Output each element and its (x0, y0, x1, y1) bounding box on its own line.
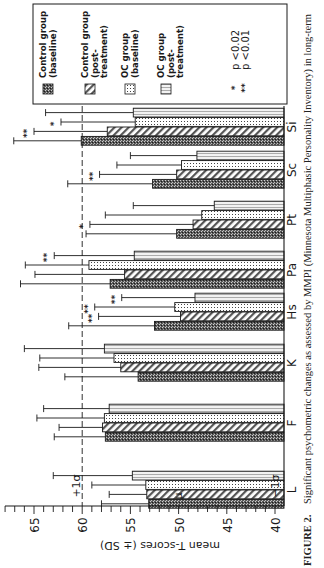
bar-group-pa: ** (21, 251, 284, 288)
legend-label: treatment) (175, 25, 185, 78)
dense-dots-swatch-icon (43, 84, 53, 94)
axis-tick-label: 45 (221, 517, 235, 532)
bar-hs-series-0 (155, 321, 285, 330)
sparse-dots-swatch-icon (125, 84, 135, 94)
bar-sc-series-0 (153, 179, 284, 188)
category-labels: LFKHsPaPtScSi (285, 122, 299, 494)
bar-group-sc: ** (68, 151, 284, 188)
bar-si-series-3 (133, 108, 284, 117)
category-label-si: Si (285, 122, 299, 133)
caption-text: Significant psychometric changes as asse… (302, 14, 314, 504)
category-label-sc: Sc (285, 163, 299, 177)
bar-k-series-3 (104, 344, 284, 353)
axis-title: mean T-scores (± SD) (100, 539, 220, 552)
bar-pa-series-0 (110, 279, 284, 288)
axis-tick-label: 55 (124, 517, 138, 532)
category-label-pa: Pa (285, 263, 299, 277)
axis-tick-label: 65 (28, 517, 42, 532)
category-label-hs: Hs (285, 304, 299, 319)
significance-marker: ** (87, 313, 97, 323)
significance-marker: ** (42, 253, 52, 263)
bar-pt-series-3 (214, 201, 284, 210)
bar-pa-series-1 (125, 270, 284, 279)
vertical-lines-swatch-icon (161, 84, 171, 94)
category-label-k: K (285, 358, 299, 367)
legend-label: OC group (156, 33, 166, 78)
significance-legend-marker: * (230, 85, 240, 90)
bar-k-series-2 (114, 354, 284, 363)
bar-group-l (53, 471, 284, 508)
significance-marker: * (78, 224, 88, 229)
bar-hs-series-3 (195, 293, 284, 302)
bar-series: ************** (14, 108, 284, 508)
bar-pt-series-2 (202, 211, 284, 220)
bar-l-series-3 (132, 471, 284, 480)
significance-marker: ** (110, 295, 120, 305)
legend-label: treatment) (99, 25, 109, 78)
bar-f-series-1 (102, 423, 284, 432)
plus-sigma-label: +1σ (70, 474, 83, 497)
axis-tick-label: 50 (173, 517, 187, 532)
category-label-f: F (285, 419, 299, 426)
significance-legend-marker: ** (240, 83, 250, 93)
bar-group-f (37, 404, 284, 441)
significance-marker: ** (83, 304, 93, 314)
bar-l-series-2 (146, 481, 284, 490)
bar-pa-series-2 (89, 261, 284, 270)
caption-label: FIGURE 2. (302, 514, 313, 566)
legend-label: (post- (166, 49, 176, 78)
bar-f-series-2 (104, 414, 284, 423)
legend-label: (baseline) (130, 29, 140, 78)
bar-pa-series-3 (134, 251, 284, 260)
figure-caption: FIGURE 2. Significant psychometric chang… (302, 14, 314, 566)
bar-hs-series-1 (181, 312, 284, 321)
bar-sc-series-3 (197, 151, 284, 160)
diagonal-stripes-swatch-icon (85, 84, 95, 94)
bar-si-series-0 (81, 136, 284, 145)
bar-k-series-1 (121, 363, 284, 372)
mmpi-bar-chart: Control group(baseline)Control group(pos… (0, 0, 324, 568)
bar-group-pt: * (78, 201, 284, 238)
legend-label: Control group (80, 11, 90, 78)
bar-group-hs: ****** (69, 293, 284, 330)
bar-pt-series-0 (177, 229, 284, 238)
bar-pt-series-1 (193, 220, 284, 229)
bar-k-series-0 (138, 372, 284, 381)
bar-sc-series-2 (181, 161, 284, 170)
bar-hs-series-2 (175, 303, 284, 312)
minus-sigma-label: −1σ (269, 474, 282, 497)
bar-si-series-1 (107, 127, 284, 136)
legend-label: (post- (90, 49, 100, 78)
axis-tick-label: 40 (269, 517, 283, 532)
bar-f-series-0 (105, 432, 284, 441)
bar-l-series-1 (147, 490, 284, 499)
significance-marker: ** (22, 128, 32, 138)
bar-si-series-2 (135, 118, 284, 127)
legend-label: (baseline) (48, 29, 58, 78)
legend-label: OC group (120, 33, 130, 78)
bar-group-si: *** (14, 108, 284, 145)
bar-f-series-3 (109, 404, 284, 413)
significance-marker: * (49, 121, 59, 126)
bar-sc-series-1 (177, 170, 284, 179)
category-label-l: L (285, 486, 299, 493)
axis-tick-label: 60 (76, 517, 90, 532)
chart-legend: Control group(baseline)Control group(pos… (33, 4, 287, 104)
significance-legend-text: p <0.01 (240, 30, 251, 70)
significance-marker: ** (88, 171, 98, 181)
category-label-pt: Pt (285, 214, 299, 226)
mu-label: μ (172, 493, 185, 500)
legend-label: Control group (38, 11, 48, 78)
bar-group-k (24, 344, 284, 381)
